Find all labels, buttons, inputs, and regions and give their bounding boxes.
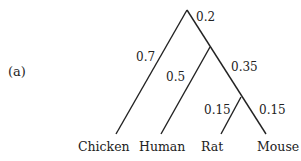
branch-length-human: 0.5 [166, 71, 185, 83]
branch-length-rat: 0.15 [204, 104, 231, 116]
leaf-label-mouse: Mouse [257, 141, 299, 153]
branch-length-mouse: 0.15 [259, 104, 286, 116]
branch-length-root: 0.2 [196, 11, 215, 23]
panel-label: (a) [8, 66, 26, 78]
branch-length-chicken: 0.7 [136, 51, 155, 63]
leaf-label-human: Human [139, 141, 185, 153]
leaf-label-rat: Rat [201, 141, 223, 153]
branch-length-rat-mouse-ancestor: 0.35 [231, 61, 258, 73]
phylogenetic-tree [0, 0, 301, 161]
leaf-label-chicken: Chicken [78, 141, 130, 153]
branch-human [161, 47, 210, 134]
